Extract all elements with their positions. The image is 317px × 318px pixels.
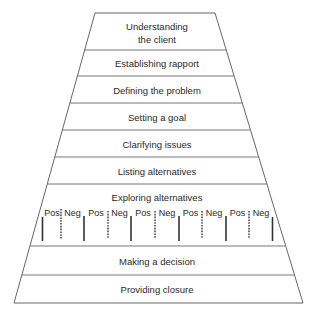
pos-label: Pos [44, 208, 60, 218]
neg-label: Neg [159, 208, 176, 218]
neg-label: Neg [64, 208, 81, 218]
neg-label: Neg [111, 208, 128, 218]
stage-understanding-line1: Understanding [126, 21, 188, 32]
pos-label: Pos [88, 208, 104, 218]
funnel-diagram: Understanding the client Establishing ra… [0, 0, 317, 318]
neg-label: Neg [253, 208, 270, 218]
neg-label: Neg [206, 208, 223, 218]
stage-providing-closure: Providing closure [121, 284, 194, 295]
stage-clarifying-issues: Clarifying issues [122, 139, 191, 150]
stage-defining-problem: Defining the problem [113, 85, 201, 96]
stage-setting-goal: Setting a goal [128, 112, 186, 123]
stage-understanding-line2: the client [138, 34, 176, 45]
pos-label: Pos [230, 208, 246, 218]
pos-label: Pos [135, 208, 151, 218]
stage-establishing-rapport: Establishing rapport [115, 58, 199, 69]
stage-making-decision: Making a decision [119, 256, 195, 267]
stage-listing-alternatives: Listing alternatives [118, 166, 197, 177]
pos-label: Pos [183, 208, 199, 218]
stage-exploring-alternatives: Exploring alternatives [112, 192, 203, 203]
